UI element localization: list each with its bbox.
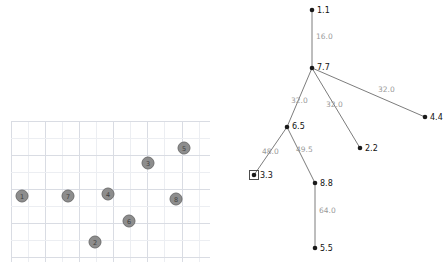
- tree-edge-weight-label: 16.0: [316, 32, 333, 41]
- weighted-tree-svg: 16.032.032.032.048.049.564.01.17.74.46.5…: [222, 0, 445, 270]
- tree-node-dot[interactable]: [313, 181, 318, 186]
- tree-node-dot[interactable]: [423, 115, 428, 120]
- tree-node-label: 4.4: [430, 113, 443, 122]
- scatter-node[interactable]: 3: [142, 157, 154, 169]
- tree-node[interactable]: 5.5: [313, 244, 333, 253]
- tree-edge-weight-label: 32.0: [326, 100, 343, 109]
- tree-edge-weight-label: 49.5: [296, 145, 313, 154]
- tree-node-dot[interactable]: [285, 125, 290, 130]
- tree-node[interactable]: 2.2: [358, 144, 378, 153]
- tree-node[interactable]: 4.4: [423, 113, 443, 122]
- tree-edge-weight-label: 32.0: [291, 96, 308, 105]
- scatter-node[interactable]: 6: [123, 215, 135, 227]
- tree-node-dot[interactable]: [358, 146, 363, 151]
- tree-node-dot[interactable]: [310, 8, 315, 13]
- tree-node[interactable]: 6.5: [285, 122, 305, 131]
- scatter-node[interactable]: 8: [170, 193, 182, 205]
- tree-edge-weight-label: 32.0: [378, 85, 395, 94]
- scatter-node-label: 7: [66, 193, 70, 201]
- tree-node-dot[interactable]: [310, 66, 315, 71]
- weighted-tree-panel: 16.032.032.032.048.049.564.01.17.74.46.5…: [222, 0, 445, 270]
- tree-node-selected[interactable]: 3.3: [250, 171, 273, 180]
- tree-edge-weight-label: 64.0: [319, 206, 336, 215]
- tree-edge[interactable]: [287, 127, 315, 183]
- grid-scatter-plot-panel: 17426358: [0, 0, 222, 270]
- figure-canvas: 17426358 16.032.032.032.048.049.564.01.1…: [0, 0, 445, 270]
- tree-node-dot[interactable]: [252, 173, 257, 178]
- scatter-node[interactable]: 1: [16, 190, 28, 202]
- scatter-node-label: 8: [174, 196, 178, 204]
- scatter-node-label: 4: [106, 191, 110, 199]
- tree-node-label: 5.5: [320, 244, 333, 253]
- scatter-node-label: 3: [146, 160, 150, 168]
- tree-node-label: 3.3: [260, 171, 273, 180]
- tree-edges: [254, 10, 425, 248]
- tree-node-label: 2.2: [365, 144, 378, 153]
- grid-scatter-svg: 17426358: [0, 0, 222, 270]
- scatter-node-label: 6: [127, 218, 131, 226]
- tree-node-label: 1.1: [317, 6, 330, 15]
- scatter-node-label: 1: [20, 193, 24, 201]
- tree-edge-weight-label: 48.0: [262, 147, 279, 156]
- scatter-node-label: 2: [93, 239, 97, 247]
- tree-node[interactable]: 7.7: [310, 63, 330, 72]
- scatter-node[interactable]: 4: [102, 188, 114, 200]
- tree-node-label: 6.5: [292, 122, 305, 131]
- tree-edge[interactable]: [312, 68, 425, 117]
- scatter-node[interactable]: 5: [178, 142, 190, 154]
- tree-node[interactable]: 8.8: [313, 179, 333, 188]
- tree-node-label: 8.8: [320, 179, 333, 188]
- tree-nodes: 1.17.74.46.52.23.38.85.5: [250, 6, 443, 253]
- scatter-node[interactable]: 7: [62, 190, 74, 202]
- scatter-node[interactable]: 2: [89, 236, 101, 248]
- tree-node-dot[interactable]: [313, 246, 318, 251]
- tree-node[interactable]: 1.1: [310, 6, 330, 15]
- scatter-node-label: 5: [182, 145, 186, 153]
- tree-node-label: 7.7: [317, 63, 330, 72]
